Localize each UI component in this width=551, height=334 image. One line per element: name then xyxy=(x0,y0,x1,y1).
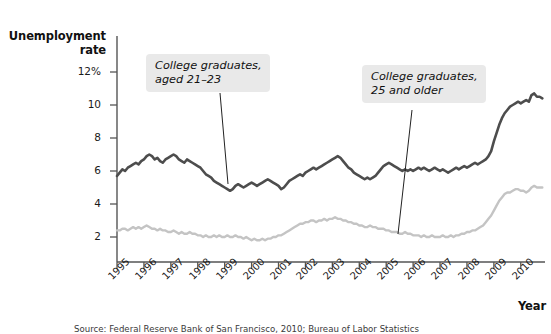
y-tick-label-4: 4 xyxy=(61,198,101,209)
annotation-leader-lines xyxy=(220,93,412,234)
leader-line-aged-21-23 xyxy=(220,93,228,184)
annotation-college-graduates-21-23: College graduates, aged 21–23 xyxy=(146,54,270,92)
y-tick-label-6: 6 xyxy=(61,165,101,176)
unemployment-rate-chart: Unemployment rate Year 12%108642 1995199… xyxy=(0,0,551,334)
source-note: Source: Federal Reserve Bank of San Fran… xyxy=(74,324,419,334)
series-line-aged-21-23 xyxy=(117,93,542,190)
y-tick-label-12pct: 12% xyxy=(61,66,101,77)
leader-line-aged-25-older xyxy=(398,110,412,234)
y-axis-ticks xyxy=(110,72,117,237)
x-axis-title: Year xyxy=(492,300,546,314)
data-series-layer xyxy=(117,93,542,240)
y-axis-title: Unemployment rate xyxy=(2,30,106,57)
y-tick-label-10: 10 xyxy=(61,99,101,110)
series-line-aged-25-older xyxy=(117,186,542,240)
y-tick-label-8: 8 xyxy=(61,132,101,143)
y-tick-label-2: 2 xyxy=(61,231,101,242)
annotation-college-graduates-25-older: College graduates, 25 and older xyxy=(362,65,486,103)
